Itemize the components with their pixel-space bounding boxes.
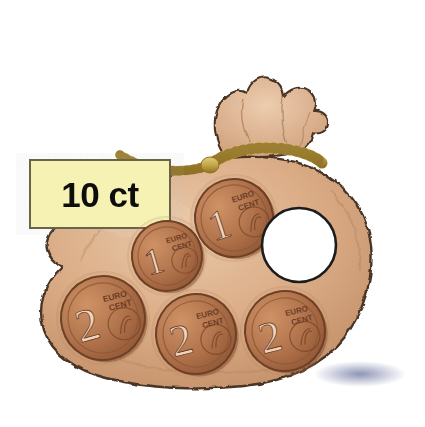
illustration-canvas: 10 ct 1 EURO CENT [0,0,425,427]
money-bag-illustration: 10 ct 1 EURO CENT [0,0,425,427]
empty-coin-slot[interactable] [262,208,336,282]
price-label-text: 10 ct [61,175,139,214]
bag-drop-shadow [314,361,406,387]
price-label[interactable]: 10 ct [30,160,170,228]
